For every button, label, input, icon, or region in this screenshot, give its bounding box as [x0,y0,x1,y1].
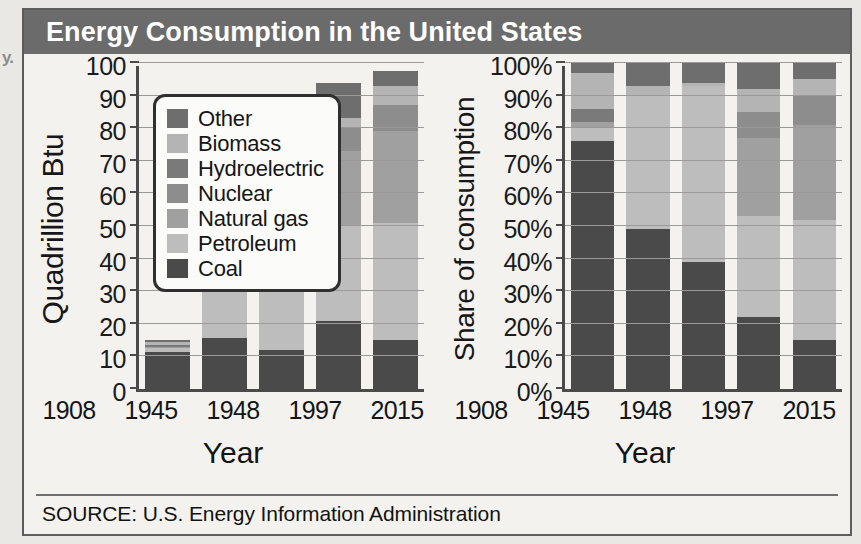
y-tickmark [130,224,139,226]
y-tick-label: 60% [503,182,552,211]
charts-container: Quadrillion Btu 0102030405060708090100 1… [24,54,850,494]
legend-item: Hydroelectric [167,156,324,181]
y-tick-label: 100 [86,52,126,81]
legend-item-label: Natural gas [198,206,308,232]
x-tick-label: 1997 [283,396,347,425]
bar-segment-petroleum [571,128,614,141]
figure-title: Energy Consumption in the United States [24,17,582,48]
stacked-bar [626,63,669,389]
y-tickmark [556,224,565,226]
legend-item-label: Other [198,106,252,132]
bar-segment-other [737,63,780,89]
y-tickmark [130,387,139,389]
bar-segment-biomass [793,79,836,95]
bar-segment-natural-gas [737,138,780,216]
stacked-bar [202,285,246,389]
y-tick-label: 30% [503,280,552,309]
legend-item: Other [167,106,324,131]
y-tickmark [130,191,139,193]
x-tick-label: 1908 [449,396,513,425]
y-tickmark [130,126,139,128]
x-tick-label: 1908 [37,396,101,425]
gridline [565,323,842,324]
y-tick-label: 100% [490,52,552,81]
y-tick-label: 20 [99,312,126,341]
legend-swatch-icon [167,134,188,153]
x-tick-label: 1948 [613,396,677,425]
legend-item: Nuclear [167,181,324,206]
y-tick-label: 10% [503,345,552,374]
legend-item-label: Nuclear [198,181,272,207]
stacked-bar [259,285,303,389]
bar-segment-biomass [571,73,614,109]
bar-segment-coal [682,262,725,389]
stacked-bar [373,71,417,389]
gridline [565,127,842,128]
y-tick-label: 20% [503,312,552,341]
legend-item-label: Coal [198,256,242,282]
y-tickmark [556,257,565,259]
y-tickmark [556,191,565,193]
x-axis-title-left: Year [28,436,438,470]
bar-segment-natural-gas [793,125,836,220]
legend-swatch-icon [167,209,188,228]
legend-item: Natural gas [167,206,324,231]
gridline [139,323,424,324]
y-tick-label: 80% [503,117,552,146]
gridline [565,95,842,96]
y-axis-ticklabels-right: 0%10%20%30%40%50%60%70%80%90%100% [480,54,558,404]
y-tickmark [556,159,565,161]
stacked-bar [571,63,614,389]
y-tick-label: 40 [99,247,126,276]
legend-item: Coal [167,256,324,281]
legend-item-label: Petroleum [198,231,296,257]
figure-panel: Energy Consumption in the United States … [22,8,852,536]
figure-title-bar: Energy Consumption in the United States [24,10,850,54]
bar-segment-petroleum [259,291,303,350]
gridline [565,160,842,161]
bar-segment-petroleum [202,288,246,339]
legend-swatch-icon [167,184,188,203]
y-tick-label: 50 [99,215,126,244]
y-tickmark [556,322,565,324]
source-note: SOURCE: U.S. Energy Information Administ… [42,502,501,526]
legend-item: Biomass [167,131,324,156]
bar-segment-nuclear [737,112,780,138]
gridline [565,62,842,63]
y-tick-label: 60 [99,182,126,211]
y-tick-label: 90% [503,84,552,113]
legend-swatch-icon [167,259,188,278]
y-tickmark [556,61,565,63]
bar-segment-coal [373,340,417,389]
bar-segment-other [373,71,417,86]
y-tickmark [556,387,565,389]
y-tickmark [130,322,139,324]
page-text-artifact: y. [2,48,13,68]
gridline [565,355,842,356]
y-axis-title-left-text: Quadrillion Btu [36,134,70,325]
x-tick-label: 1945 [531,396,595,425]
bar-segment-other [571,63,614,73]
stacked-bar [737,63,780,389]
x-tick-label: 2015 [777,396,841,425]
y-tickmark [556,126,565,128]
y-axis-title-right-text: Share of consumption [449,97,481,361]
chart-quadrillion-btu: Quadrillion Btu 0102030405060708090100 1… [28,54,438,494]
bar-segment-coal [571,141,614,389]
gridline [565,290,842,291]
x-tick-label: 1997 [695,396,759,425]
x-axis-title-right: Year [440,436,850,470]
legend-swatch-icon [167,159,188,178]
y-tick-label: 30 [99,280,126,309]
bar-segment-coal [202,338,246,389]
x-axis-ticklabels-left: 19081945194819972015 [28,396,438,425]
y-tick-label: 70% [503,149,552,178]
bar-segment-other [793,63,836,79]
x-axis-ticklabels-right: 19081945194819972015 [440,396,850,425]
bar-segment-petroleum [737,216,780,317]
y-tick-label: 80 [99,117,126,146]
y-tickmark [556,289,565,291]
chart-share-of-consumption: Share of consumption 0%10%20%30%40%50%60… [440,54,850,494]
bar-segment-nuclear [793,96,836,125]
bar-segment-coal [793,340,836,389]
